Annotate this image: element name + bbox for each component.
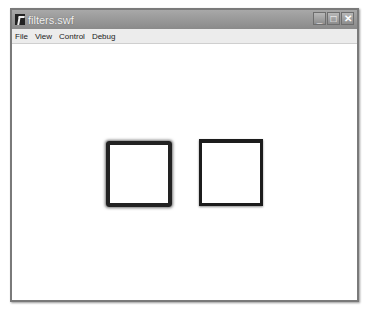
shadowed-square xyxy=(199,139,263,206)
menu-view[interactable]: View xyxy=(35,32,52,41)
window-title: filters.swf xyxy=(28,14,74,26)
menu-control[interactable]: Control xyxy=(59,32,85,41)
window-controls: _ □ ✕ xyxy=(313,12,354,25)
flash-player-window: filters.swf _ □ ✕ File View Control Debu… xyxy=(10,8,359,302)
blurred-square xyxy=(106,141,172,207)
flash-player-icon xyxy=(15,14,25,25)
close-button[interactable]: ✕ xyxy=(341,12,354,25)
menu-file[interactable]: File xyxy=(15,32,28,41)
title-bar[interactable]: filters.swf _ □ ✕ xyxy=(12,10,357,29)
menu-bar: File View Control Debug xyxy=(12,29,357,44)
menu-debug[interactable]: Debug xyxy=(92,32,116,41)
minimize-button[interactable]: _ xyxy=(313,12,326,25)
swf-stage[interactable] xyxy=(12,44,357,300)
maximize-button[interactable]: □ xyxy=(327,12,340,25)
